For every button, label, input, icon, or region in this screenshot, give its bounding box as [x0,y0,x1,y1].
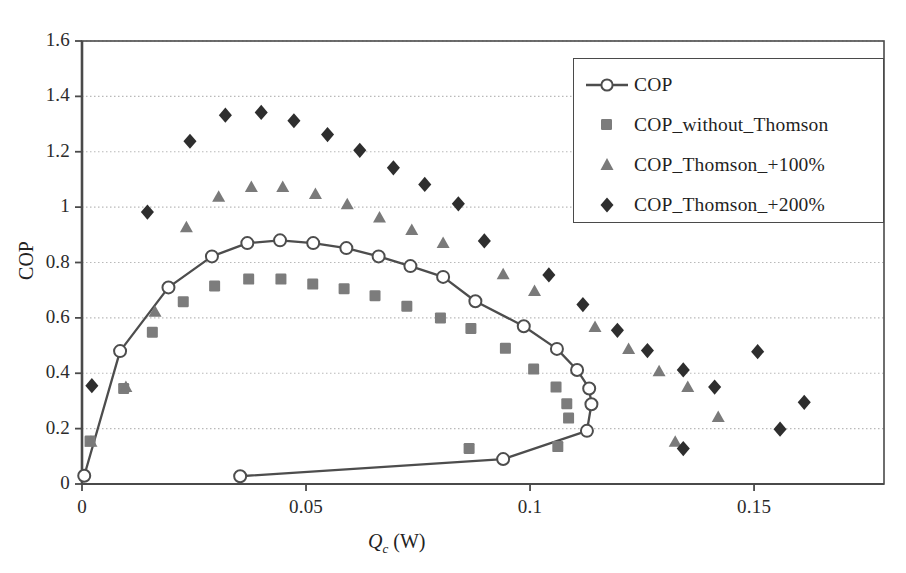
legend-label: COP_Thomson_+200% [634,194,825,216]
legend-marker-open-circle-line [582,73,634,97]
legend-entry[interactable]: COP [582,68,673,102]
legend-key [582,153,634,177]
legend-marker-filled-square [582,113,634,137]
y-tick-label: 1.2 [46,140,70,162]
x-axis-label-unit: (W) [388,530,425,552]
legend-marker-filled-triangle [582,153,634,177]
x-tick-label: 0.1 [490,496,570,518]
legend-key [582,193,634,217]
y-tick-label: 0.4 [46,361,70,383]
x-axis-label-symbol: Q [368,530,382,552]
x-tick-label: 0.05 [266,496,346,518]
legend-label: COP [634,74,673,96]
x-tick-label: 0.15 [714,496,794,518]
legend-entry[interactable]: COP_Thomson_+200% [582,188,825,222]
legend-entry[interactable]: COP_Thomson_+100% [582,148,825,182]
y-tick-label: 1 [60,195,70,217]
legend-key [582,113,634,137]
legend-label: COP_without_Thomson [634,114,829,136]
y-tick-label: 0.8 [46,251,70,273]
y-tick-label: 0 [60,472,70,494]
y-tick-label: 1.4 [46,84,70,106]
y-tick-label: 1.6 [46,29,70,51]
x-axis-label: Qc (W) [368,530,425,557]
legend-marker-filled-diamond [582,193,634,217]
y-tick-label: 0.2 [46,417,70,439]
legend-key [582,73,634,97]
legend-entry[interactable]: COP_without_Thomson [582,108,829,142]
legend-label: COP_Thomson_+100% [634,154,825,176]
chart-figure: COP Qc (W) 00.20.40.60.811.21.41.6 00.05… [0,0,906,573]
chart-legend: COPCOP_without_ThomsonCOP_Thomson_+100%C… [573,58,884,223]
y-tick-label: 0.6 [46,306,70,328]
series-cop [78,234,597,482]
y-axis-label: COP [15,220,38,300]
x-tick-label: 0 [42,496,122,518]
